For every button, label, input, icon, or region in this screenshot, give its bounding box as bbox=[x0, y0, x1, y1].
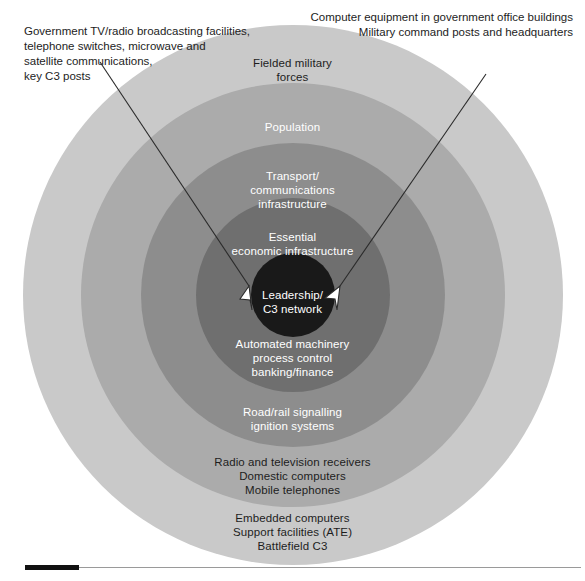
footer-rule-tab bbox=[25, 565, 79, 570]
annotation-right-text: Computer equipment in government office … bbox=[310, 10, 573, 40]
diagram-canvas: Fielded military forces Population Trans… bbox=[0, 0, 585, 581]
footer-rule bbox=[0, 565, 585, 571]
footer-rule-line bbox=[25, 567, 581, 568]
annotation-left-text: Government TV/radio broadcasting facilit… bbox=[24, 24, 250, 84]
ring-leadership-core bbox=[251, 253, 335, 337]
